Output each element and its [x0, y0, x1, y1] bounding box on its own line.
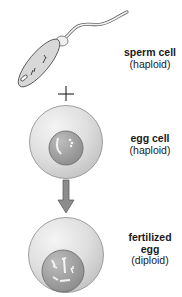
egg-cell-name: egg cell: [118, 133, 182, 145]
egg-cell-ploidy: (haploid): [118, 145, 182, 157]
fertilized-egg-ploidy: (diploid): [118, 255, 182, 267]
sperm-cell-ploidy: (haploid): [118, 59, 182, 71]
sperm-cell-illustration: [12, 12, 127, 92]
egg-cell-illustration: [30, 106, 103, 179]
down-arrow-icon: [58, 180, 74, 213]
sperm-cell-label: sperm cell (haploid): [118, 47, 182, 70]
egg-cell-label: egg cell (haploid): [118, 133, 182, 156]
sperm-cell-name: sperm cell: [118, 47, 182, 59]
fertilized-egg-label: fertilized egg (diploid): [118, 232, 182, 267]
plus-icon: [58, 86, 74, 101]
fertilized-egg-name-line1: fertilized: [118, 232, 182, 244]
fertilized-egg-illustration: [29, 218, 104, 293]
